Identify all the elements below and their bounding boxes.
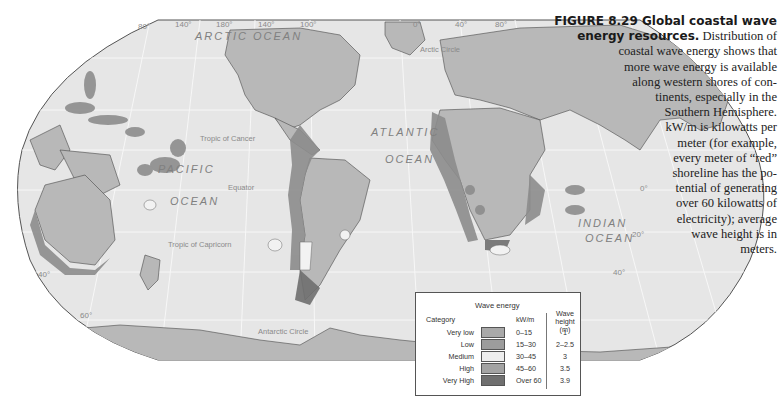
label-atlantic-ocean-1: ATLANTIC xyxy=(370,126,439,138)
label-lon-80w: 80° xyxy=(138,22,150,31)
legend-swatch xyxy=(481,363,505,374)
legend-height: 1 xyxy=(551,328,579,337)
caption-line: shoreline has the po- xyxy=(547,166,777,181)
legend-row-high: High 45–60 3.5 xyxy=(416,363,582,375)
label-arctic-circle: Arctic Circle xyxy=(420,45,460,54)
label-antarctic-circle: Antarctic Circle xyxy=(258,327,308,336)
label-lon-180: 180° xyxy=(216,20,233,29)
caption-line: tential of generating xyxy=(547,181,777,196)
legend-row-low: Low 15–30 2–2.5 xyxy=(416,339,582,351)
caption-line: along western shores of con- xyxy=(547,75,777,90)
label-lon-0: 0° xyxy=(413,20,421,29)
legend-category: Very High xyxy=(443,376,474,385)
legend-category: Low xyxy=(461,340,474,349)
legend-kw: 15–30 xyxy=(516,340,536,349)
label-atlantic-ocean-2: OCEAN xyxy=(385,153,434,165)
legend-category: Very low xyxy=(447,328,474,337)
label-pacific-ocean-2: OCEAN xyxy=(170,195,219,207)
legend-height: 3.5 xyxy=(551,364,579,373)
label-lon-140e: 140° xyxy=(175,20,192,29)
caption-line: electricity); average xyxy=(547,212,777,227)
legend-height: 3 xyxy=(551,352,579,361)
legend-row-very-high: Very High Over 60 3.9 xyxy=(416,375,582,387)
label-lat-right-40: 40° xyxy=(613,268,625,277)
label-pacific-ocean-1: PACIFIC xyxy=(158,163,215,175)
label-lon-80e: 80° xyxy=(495,20,507,29)
caption-line: meters. xyxy=(547,242,777,257)
figure-caption: FIGURE 8.29 Global coastal wave energy r… xyxy=(547,14,777,257)
legend-swatch xyxy=(481,327,505,338)
label-tropic-capricorn: Tropic of Capricorn xyxy=(168,240,232,249)
legend-category-header: Category xyxy=(426,315,455,324)
legend-kw: 45–60 xyxy=(516,364,536,373)
caption-line: every meter of “red” xyxy=(547,151,777,166)
caption-line: Southern Hemisphere. xyxy=(547,105,777,120)
label-arctic-ocean: ARCTIC OCEAN xyxy=(194,30,302,42)
caption-line: FIGURE 8.29 Global coastal wave xyxy=(547,14,777,29)
label-lon-40e: 40° xyxy=(455,20,467,29)
legend-kw: 0–15 xyxy=(516,328,532,337)
legend-row-medium: Medium 30–45 3 xyxy=(416,351,582,363)
caption-line: meter (for example, xyxy=(547,136,777,151)
caption-line: energy resources. Distribution of xyxy=(547,29,777,44)
legend-kw-header: kW/m xyxy=(516,315,534,324)
legend-swatch xyxy=(481,351,505,362)
label-lon-100w: 100° xyxy=(300,20,317,29)
legend-height: 3.9 xyxy=(551,376,579,385)
label-lon-140w: 140° xyxy=(258,20,275,29)
label-lat-left-40: 40° xyxy=(38,270,50,279)
caption-line: coastal wave energy shows that xyxy=(547,44,777,59)
label-lat-left-60: 60° xyxy=(80,311,92,320)
legend-height: 2–2.5 xyxy=(551,340,579,349)
legend-kw: Over 60 xyxy=(516,376,542,385)
caption-line: more wave energy is available xyxy=(547,60,777,75)
legend-category: Medium xyxy=(448,352,474,361)
caption-line: over 60 kilowatts of xyxy=(547,196,777,211)
caption-line: kW/m is kilowatts per xyxy=(547,120,777,135)
label-tropic-cancer: Tropic of Cancer xyxy=(200,134,256,143)
caption-line: tinents, especially in the xyxy=(547,90,777,105)
legend-swatch xyxy=(481,375,505,386)
caption-line: wave height is in xyxy=(547,227,777,242)
legend-category: High xyxy=(459,364,474,373)
legend-kw: 30–45 xyxy=(516,352,536,361)
wave-energy-legend: Wave energy Category kW/m Waveheight (m)… xyxy=(415,292,581,396)
label-equator: Equator xyxy=(228,183,255,192)
legend-swatch xyxy=(481,339,505,350)
legend-title: Wave energy xyxy=(475,301,519,310)
legend-row-very-low: Very low 0–15 1 xyxy=(416,327,582,339)
